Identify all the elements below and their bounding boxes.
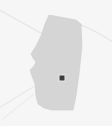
map-canvas [0, 0, 112, 126]
location-marker[interactable] [59, 75, 66, 82]
marker-dot[interactable] [60, 76, 65, 81]
map-thumbnail[interactable]: Alberta [0, 0, 112, 126]
